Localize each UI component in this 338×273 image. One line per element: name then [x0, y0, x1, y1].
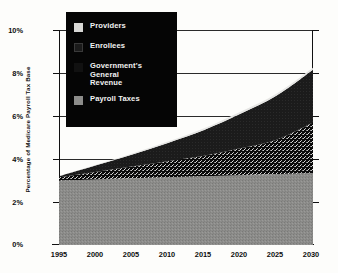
legend-label-providers: Providers [90, 22, 126, 31]
x-tick-label-2020: 2020 [219, 250, 259, 259]
legend-swatch-payroll-taxes-icon [74, 96, 83, 105]
chart-figure: Percentage of Medicare Payroll Tax Base … [0, 0, 338, 273]
y-tick-label-4: 4% [0, 155, 23, 164]
legend-item-government-general-revenue: Government's General Revenue [74, 62, 142, 88]
x-tick-label-2030: 2030 [291, 250, 331, 259]
x-tick-label-2010: 2010 [147, 250, 187, 259]
y-tick-label-2: 2% [0, 198, 23, 207]
x-tick-label-2015: 2015 [183, 250, 223, 259]
y-tick-label-10: 10% [0, 26, 23, 35]
legend-item-payroll-taxes: Payroll Taxes [74, 95, 140, 105]
x-tick-label-2025: 2025 [255, 250, 295, 259]
area-payroll-taxes [59, 173, 313, 245]
x-tick-label-2000: 2000 [75, 250, 115, 259]
y-tick-right-2 [313, 202, 319, 203]
y-tick-label-0: 0% [0, 240, 23, 249]
y-tick-right-6 [313, 116, 319, 117]
legend-swatch-enrollees-icon [74, 43, 83, 52]
legend-label-government-line3: Revenue [90, 78, 122, 87]
y-tick-label-6: 6% [0, 112, 23, 121]
y-tick-label-8: 8% [0, 69, 23, 78]
y-tick-right-8 [313, 73, 319, 74]
legend-label-payroll-taxes: Payroll Taxes [90, 95, 140, 104]
y-tick-right-4 [313, 159, 319, 160]
y-axis-title: Percentage of Medicare Payroll Tax Base [24, 45, 31, 215]
chart-legend: Providers Enrollees Government's General… [66, 12, 177, 127]
legend-item-enrollees: Enrollees [74, 42, 125, 52]
legend-label-enrollees: Enrollees [90, 42, 125, 51]
legend-swatch-providers-icon [74, 23, 83, 32]
legend-swatch-government-icon [74, 63, 83, 72]
legend-item-providers: Providers [74, 22, 126, 32]
x-tick-label-2005: 2005 [111, 250, 151, 259]
x-tick-label-1995: 1995 [39, 250, 79, 259]
y-tick-right-10 [313, 30, 319, 31]
